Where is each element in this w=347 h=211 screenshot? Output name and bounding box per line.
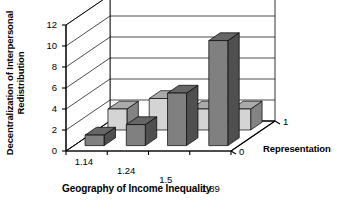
y-axis-tick-label: 12	[35, 20, 57, 30]
z-axis-tick-label: 1	[283, 117, 288, 127]
z-axis-tick-label: 0	[239, 147, 244, 157]
x-axis	[66, 151, 231, 155]
y-axis-tick-label: 4	[35, 104, 57, 114]
bar-side-face	[228, 33, 239, 146]
y-axis-tick-label: 10	[35, 41, 57, 51]
x-axis-title: Geography of Income Inequality	[62, 183, 211, 194]
x-axis-tick-label: 1.24	[117, 166, 136, 176]
y-axis	[62, 25, 66, 151]
bar-front-face	[126, 125, 145, 146]
bar	[126, 117, 156, 146]
bar-side-face	[187, 85, 198, 145]
bar-front-face	[209, 41, 228, 146]
bar	[168, 85, 198, 145]
y-axis-tick-label: 6	[35, 83, 57, 93]
y-axis-tick-label: 0	[35, 146, 57, 156]
bar-front-face	[85, 135, 104, 146]
bar-front-face	[168, 93, 187, 146]
z-axis-title: Representation	[263, 143, 331, 154]
bar	[209, 33, 239, 146]
z-axis-tick	[275, 121, 280, 124]
x-axis-tick-label: 1.14	[75, 157, 94, 167]
chart-3d-bar: Decentralization of Interpersonal Redist…	[0, 0, 347, 211]
y-axis-tick-label: 8	[35, 62, 57, 72]
bar-front-face	[108, 109, 127, 130]
x-axis-tick-label: 1.5	[159, 175, 172, 185]
x-axis-tick-label: 1.89	[201, 184, 220, 194]
y-axis-tick-label: 2	[35, 125, 57, 135]
z-axis-tick	[231, 151, 236, 154]
